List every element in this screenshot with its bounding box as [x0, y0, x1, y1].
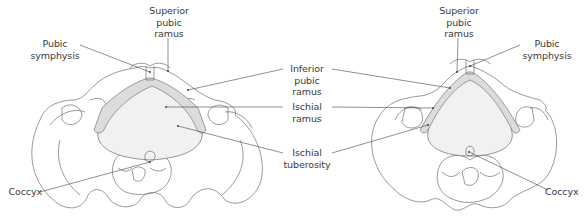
label-ischial-tuberosity: Ischial tuberosity	[282, 147, 332, 170]
label-pubic-symphysis-right: Pubic symphysis	[518, 38, 576, 61]
label-superior-pubic-ramus-left: Superior pubic ramus	[145, 5, 193, 40]
label-superior-pubic-ramus-right: Superior pubic ramus	[435, 5, 483, 40]
label-inferior-pubic-ramus: Inferior pubic ramus	[282, 63, 332, 98]
label-ischial-ramus: Ischial ramus	[282, 101, 332, 124]
label-coccyx-left: Coccyx	[2, 186, 42, 198]
right-pelvis-drawing	[372, 59, 557, 210]
label-pubic-symphysis-left: Pubic symphysis	[30, 38, 80, 61]
label-coccyx-right: Coccyx	[545, 186, 585, 198]
left-pelvis-drawing	[32, 63, 263, 208]
pelvis-anatomy-figure: Superior pubic ramus Pubic symphysis Coc…	[0, 0, 585, 216]
